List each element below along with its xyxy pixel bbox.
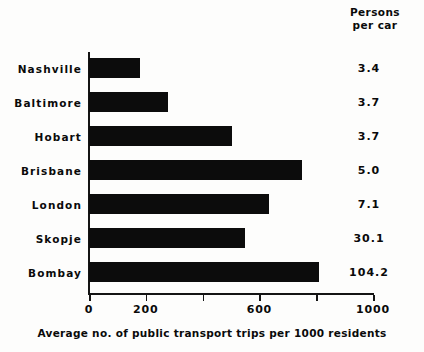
bar-row-label: London: [0, 195, 82, 215]
persons-per-car-value: 104.2: [330, 263, 408, 283]
bar-row-label: Bombay: [0, 263, 82, 283]
persons-per-car-value: 3.4: [330, 59, 408, 79]
bar-row-label: Nashville: [0, 59, 82, 79]
bar-row: Nashville3.4: [0, 58, 424, 92]
x-axis-tick-label: 1000: [356, 303, 390, 316]
x-axis-tick-label: 0: [85, 303, 93, 316]
bar-row: Brisbane5.0: [0, 160, 424, 194]
bar-row: London7.1: [0, 194, 424, 228]
x-axis-tick: [203, 295, 205, 301]
bar-row-label: Brisbane: [0, 161, 82, 181]
bar: [89, 160, 302, 180]
bar-row: Skopje30.1: [0, 228, 424, 262]
x-axis-tick: [316, 295, 318, 301]
bar-row-label: Hobart: [0, 127, 82, 147]
bar: [89, 126, 232, 146]
bar: [89, 262, 319, 282]
x-axis-tick: [373, 295, 375, 301]
x-axis-tick-label: 600: [247, 303, 272, 316]
persons-per-car-value: 5.0: [330, 161, 408, 181]
bar-row-label: Skopje: [0, 229, 82, 249]
x-axis-caption: Average no. of public transport trips pe…: [0, 327, 424, 339]
x-axis-tick: [89, 295, 91, 301]
persons-per-car-value: 30.1: [330, 229, 408, 249]
bar-chart-plot-area: Nashville3.4Baltimore3.7Hobart3.7Brisban…: [0, 0, 424, 352]
bar-row: Bombay104.2: [0, 262, 424, 296]
x-axis-tick: [146, 295, 148, 301]
bar-row: Baltimore3.7: [0, 92, 424, 126]
bar: [89, 58, 140, 78]
bar: [89, 194, 269, 214]
persons-per-car-value: 3.7: [330, 93, 408, 113]
persons-per-car-value: 3.7: [330, 127, 408, 147]
x-axis-tick: [259, 295, 261, 301]
bar-row-label: Baltimore: [0, 93, 82, 113]
x-axis-tick-label: 200: [133, 303, 158, 316]
bar-row: Hobart3.7: [0, 126, 424, 160]
bar: [89, 92, 168, 112]
persons-per-car-value: 7.1: [330, 195, 408, 215]
bar: [89, 228, 245, 248]
